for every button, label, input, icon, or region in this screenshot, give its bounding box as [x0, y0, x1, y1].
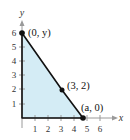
x-tick-label: 1 [33, 124, 38, 134]
point-top [19, 30, 25, 36]
point-mid [60, 88, 65, 93]
triangle-region-figure: 1 2 3 4 5 6 1 2 3 4 5 6 x y (0, y) (3, 2… [0, 0, 130, 140]
x-tick-label: 4 [72, 124, 77, 134]
point-top-label: (0, y) [28, 27, 51, 39]
x-axis-label: x [118, 112, 124, 123]
y-tick-label: 1 [12, 99, 17, 109]
y-axis-arrow-icon [20, 20, 25, 26]
y-axis-label: y [19, 7, 25, 18]
y-tick-label: 4 [12, 56, 17, 66]
x-tick-label: 6 [98, 124, 103, 134]
x-tick-label: 5 [85, 124, 90, 134]
y-tick-label: 6 [12, 28, 17, 38]
y-tick-label: 2 [12, 84, 17, 94]
x-axis-arrow-icon [112, 116, 118, 121]
plot-canvas: 1 2 3 4 5 6 1 2 3 4 5 6 x y (0, y) (3, 2… [0, 0, 130, 140]
y-tick-label: 3 [12, 70, 17, 80]
x-tick-label: 2 [46, 124, 51, 134]
point-right [80, 115, 86, 121]
y-tick-label: 5 [12, 42, 17, 52]
point-mid-label: (3, 2) [67, 80, 90, 92]
point-right-label: (a, 0) [81, 102, 104, 114]
x-tick-label: 3 [59, 124, 64, 134]
